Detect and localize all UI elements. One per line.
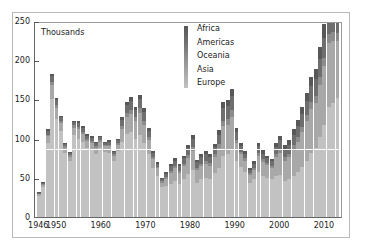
figure: 050100150200250 194619501960197019801990…	[0, 0, 366, 251]
legend-item-africa[interactable]: Africa	[197, 25, 234, 33]
x-tick-label-1960: 1960	[91, 221, 111, 230]
y-tick-label-50: 50	[0, 175, 30, 183]
x-tick-label-1970: 1970	[135, 221, 155, 230]
y-tick-mark-50	[34, 179, 39, 180]
y-tick-label-200: 200	[0, 57, 30, 65]
y-tick-label-150: 150	[0, 96, 30, 104]
y-axis: 050100150200250	[0, 0, 366, 251]
y-tick-label-0: 0	[0, 214, 30, 222]
y-tick-label-250: 250	[0, 18, 30, 26]
y-tick-mark-100	[34, 140, 39, 141]
legend-item-americas[interactable]: Americas	[197, 39, 234, 47]
units-note: Thousands	[41, 28, 84, 37]
y-tick-mark-200	[34, 61, 39, 62]
x-tick-label-1990: 1990	[224, 221, 244, 230]
legend-item-europe[interactable]: Europe	[197, 79, 234, 87]
x-tick-label-2000: 2000	[269, 221, 289, 230]
x-tick-label-2010: 2010	[314, 221, 334, 230]
y-tick-label-100: 100	[0, 136, 30, 144]
y-tick-mark-250	[34, 22, 39, 23]
legend-item-asia[interactable]: Asia	[197, 66, 234, 74]
legend-color-strip	[184, 26, 188, 88]
legend-item-oceania[interactable]: Oceania	[197, 52, 234, 60]
legend: Africa Americas Oceania Asia Europe	[184, 25, 234, 88]
legend-label-list: Africa Americas Oceania Asia Europe	[197, 25, 234, 87]
x-tick-label-1950: 1950	[46, 221, 66, 230]
x-tick-label-1980: 1980	[180, 221, 200, 230]
y-tick-mark-150	[34, 100, 39, 101]
